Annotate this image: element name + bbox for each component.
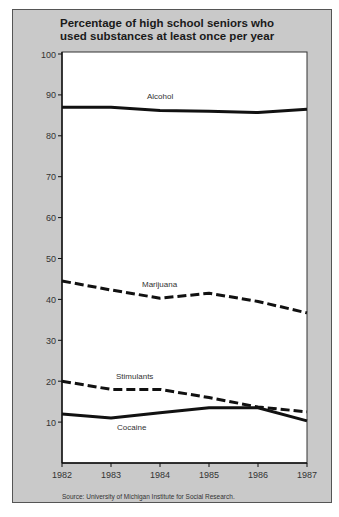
- series-label-stimulants: Stimulants: [116, 372, 153, 381]
- source-note: Source: University of Michigan Institute…: [62, 493, 235, 500]
- y-tick-label: 90: [46, 90, 56, 100]
- plot-area: [62, 52, 307, 463]
- series-label-marijuana: Marijuana: [142, 280, 178, 289]
- x-tick-label: 1986: [248, 470, 268, 480]
- y-tick-label: 30: [46, 336, 56, 346]
- y-tick-label: 80: [46, 131, 56, 141]
- y-tick-label: 50: [46, 254, 56, 264]
- series-label-alcohol: Alcohol: [147, 92, 173, 101]
- x-tick-label: 1983: [101, 470, 121, 480]
- y-tick-label: 60: [46, 213, 56, 223]
- y-tick-label: 10: [46, 418, 56, 428]
- line-chart: 1020304050607080901001982198319841985198…: [0, 0, 339, 517]
- x-tick-label: 1982: [52, 470, 72, 480]
- y-tick-label: 100: [41, 50, 56, 60]
- y-tick-label: 70: [46, 172, 56, 182]
- x-tick-label: 1984: [150, 470, 170, 480]
- y-tick-label: 20: [46, 377, 56, 387]
- x-tick-label: 1985: [199, 470, 219, 480]
- x-tick-label: 1987: [297, 470, 317, 480]
- y-tick-label: 40: [46, 295, 56, 305]
- series-label-cocaine: Cocaine: [117, 423, 147, 432]
